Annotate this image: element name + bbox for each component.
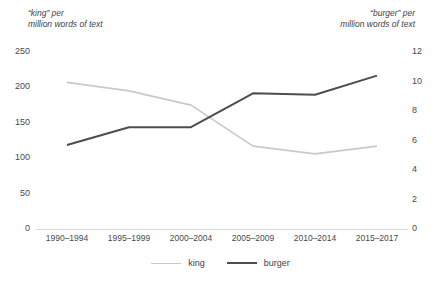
right-axis-title: “burger” per million words of text — [340, 8, 415, 30]
legend-label: burger — [264, 258, 290, 268]
tick-left-value: 250 — [4, 46, 30, 56]
tick-right-value: 6 — [412, 135, 438, 145]
tick-left-value: 150 — [4, 117, 30, 127]
chart-legend: kingburger — [0, 258, 441, 268]
series-line-king — [67, 82, 377, 154]
chart-container: “king” per million words of text “burger… — [0, 0, 441, 282]
plot-area — [36, 52, 408, 229]
legend-line-icon — [227, 262, 257, 264]
tick-right-value: 4 — [412, 164, 438, 174]
tick-right-value: 0 — [412, 223, 438, 233]
x-tick-label: 2015–2017 — [340, 233, 414, 243]
legend-line-icon — [151, 263, 181, 264]
tick-right-value: 12 — [412, 46, 438, 56]
tick-right-value: 10 — [412, 76, 438, 86]
tick-left-value: 100 — [4, 152, 30, 162]
tick-left-value: 200 — [4, 81, 30, 91]
tick-left-value: 50 — [4, 188, 30, 198]
tick-left-value: 0 — [4, 223, 30, 233]
legend-item-burger[interactable]: burger — [227, 258, 290, 268]
tick-right-value: 8 — [412, 105, 438, 115]
tick-right-value: 2 — [412, 194, 438, 204]
legend-label: king — [188, 258, 205, 268]
left-axis-title: “king” per million words of text — [28, 8, 103, 30]
series-line-burger — [67, 76, 377, 145]
x-axis-line — [36, 229, 408, 230]
legend-item-king[interactable]: king — [151, 258, 205, 268]
